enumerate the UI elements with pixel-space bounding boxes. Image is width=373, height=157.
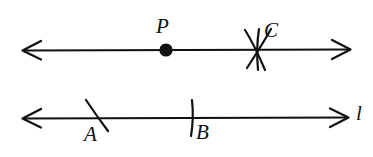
point-label-a: A [84, 124, 97, 145]
point-label-c: C [264, 20, 278, 41]
lower-line-group [23, 109, 349, 128]
geometry-figure: P C A B l [0, 0, 373, 157]
upper-line-shaft [24, 50, 349, 51]
point-p-mark [159, 43, 172, 56]
line-label-l: l [356, 103, 362, 124]
lower-line-shaft [24, 118, 347, 119]
point-label-b: B [196, 122, 209, 143]
upper-line-group [23, 40, 351, 60]
point-p-dot [159, 43, 172, 56]
point-label-p: P [156, 16, 169, 37]
figure-canvas [0, 0, 373, 157]
